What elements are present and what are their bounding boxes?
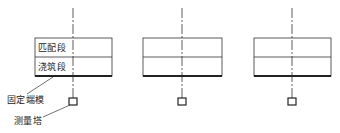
segment-unit-3 bbox=[254, 8, 331, 105]
segment-unit-2 bbox=[143, 8, 222, 105]
label-survey-tower: 测量塔 bbox=[14, 116, 42, 126]
leader-survey-tower bbox=[43, 105, 70, 117]
survey-tower-marker bbox=[288, 98, 296, 105]
label-casting-segment: 浇筑段 bbox=[38, 62, 66, 72]
survey-tower-marker bbox=[178, 98, 186, 105]
label-fixed-end-mold: 固定端模 bbox=[7, 95, 44, 105]
label-match-segment: 匹配段 bbox=[38, 43, 66, 53]
survey-tower-marker bbox=[69, 98, 77, 105]
leader-fixed-end-mold bbox=[27, 77, 53, 94]
